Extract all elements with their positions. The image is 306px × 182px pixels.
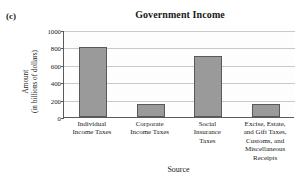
bar[interactable]	[194, 56, 222, 117]
y-tick-label: 200	[51, 97, 61, 104]
x-category-label: Excise, Estate,and Gift Taxes,Customs, a…	[228, 120, 302, 162]
bar[interactable]	[252, 104, 280, 117]
y-axis-label-line2: (in billions of dollars)	[31, 34, 40, 130]
y-tick-mark	[61, 118, 64, 119]
gridline	[64, 31, 295, 32]
chart-title: Government Income	[60, 9, 300, 21]
x-category-label-line: Excise, Estate,	[228, 120, 302, 128]
y-tick-mark	[61, 48, 64, 49]
figure-container: (c) Government Income Amount (in billion…	[0, 0, 306, 182]
x-axis-title: Source	[63, 165, 294, 174]
y-tick-mark	[61, 31, 64, 32]
x-category-label-line: Miscellaneous	[228, 145, 302, 153]
y-tick-label: 1000	[47, 28, 61, 35]
panel-label: (c)	[6, 11, 16, 21]
x-category-label-line: Customs, and	[228, 137, 302, 145]
plot-area: 02004006008001000	[63, 31, 294, 118]
x-category-label-line: Receipts	[228, 154, 302, 162]
y-tick-mark	[61, 101, 64, 102]
y-tick-label: 600	[51, 62, 61, 69]
y-tick-mark	[61, 83, 64, 84]
x-category-label-line: and Gift Taxes,	[228, 128, 302, 136]
bar[interactable]	[79, 47, 107, 117]
y-tick-label: 400	[51, 80, 61, 87]
y-axis-label-line1: Amount	[22, 34, 31, 130]
bar[interactable]	[137, 104, 165, 117]
y-tick-mark	[61, 66, 64, 67]
y-tick-label: 800	[51, 45, 61, 52]
y-axis-label: Amount (in billions of dollars)	[22, 34, 39, 130]
